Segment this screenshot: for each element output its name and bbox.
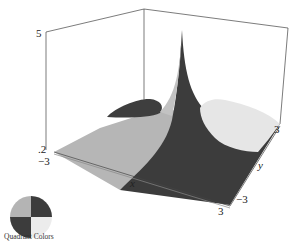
y-tick-min: −3 <box>236 194 248 205</box>
legend-quadrant-top-left <box>10 196 31 217</box>
x-tick-min: −3 <box>38 156 50 167</box>
x-axis-label: x <box>130 178 135 189</box>
z-tick-min: .2 <box>38 144 46 155</box>
legend-quadrant-top-right <box>31 196 52 217</box>
y-axis-label: y <box>258 160 263 171</box>
surface-quadrant-dark-back <box>107 99 162 118</box>
y-tick-max: 3 <box>274 124 280 135</box>
legend-caption: Quadrant Colors <box>4 232 54 241</box>
z-tick-max: 5 <box>36 28 42 39</box>
x-tick-max: 3 <box>218 206 224 217</box>
